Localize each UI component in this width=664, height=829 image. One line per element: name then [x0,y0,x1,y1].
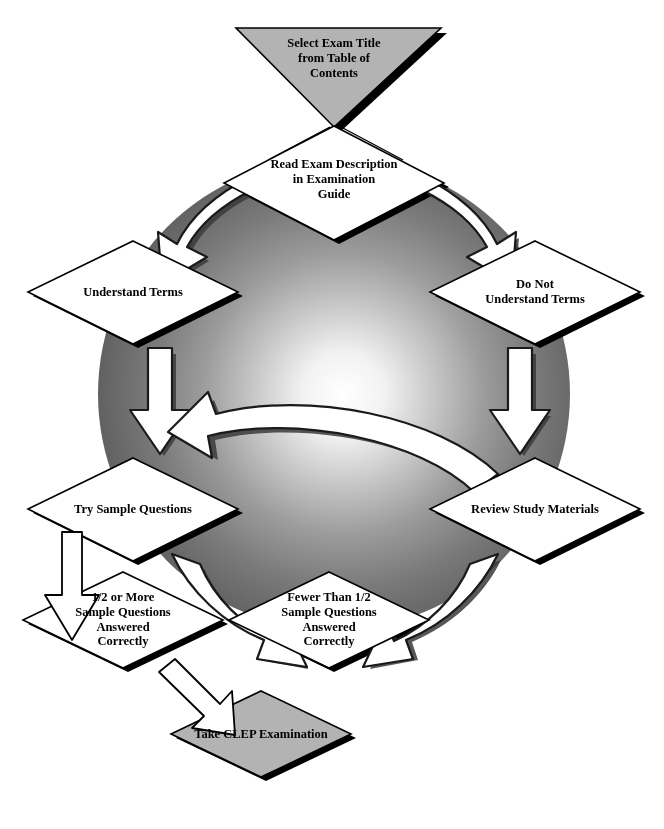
flowchart-canvas: Select Exam Title from Table of Contents… [0,0,664,829]
shape-select-exam-title [236,28,441,127]
flowchart-graphic [0,0,664,829]
arrow-half-or-more-to-take-clep-examination [159,659,235,735]
